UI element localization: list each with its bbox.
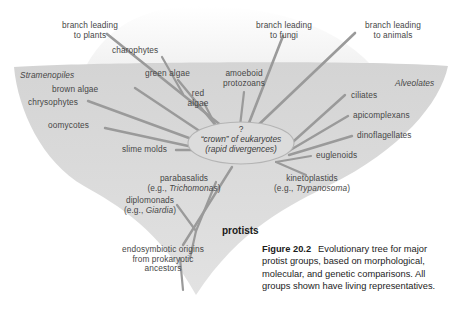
crown-node-line2: (rapid divergences) <box>181 144 301 154</box>
taxon-label-red-algae-line2: algae <box>182 99 214 109</box>
taxon-label-red-algae: red algae <box>182 89 214 108</box>
taxon-label-parabasalids: parabasalids (e.g., Trichomonas) <box>140 174 228 193</box>
crown-node-line1: “crown” of eukaryotes <box>181 134 301 144</box>
figure-caption: Figure 20.2Evolutionary tree for major p… <box>262 243 452 293</box>
taxon-label-slime-molds: slime molds <box>122 145 167 155</box>
example-suffix: ) <box>173 205 176 215</box>
root-label-line3: ancestors <box>97 264 229 274</box>
group-heading-stramenopiles: Stramenopiles <box>20 71 74 81</box>
example-prefix: (e.g., <box>147 183 169 193</box>
example-genus-trichomonas: Trichomonas <box>169 183 217 193</box>
taxon-label-euglenoids: euglenoids <box>316 151 357 161</box>
taxon-label-amoeboid-protozoans: amoeboid protozoans <box>214 69 274 88</box>
taxon-label-chrysophytes: chrysophytes <box>28 98 78 108</box>
taxon-label-diplomonads-example: (e.g., Giardia) <box>108 206 192 216</box>
group-heading-protists: protists <box>222 225 259 236</box>
taxon-label-kinetoplastids-example: (e.g., Trypanosoma) <box>264 184 360 194</box>
branch-label-fungi: branch leading to fungi <box>238 21 330 40</box>
example-suffix: ) <box>218 183 221 193</box>
crown-node-label: “crown” of eukaryotes (rapid divergences… <box>181 134 301 154</box>
example-suffix: ) <box>347 183 350 193</box>
taxon-label-brown-algae: brown algae <box>52 85 98 95</box>
taxon-label-dinoflagellates: dinoflagellates <box>357 131 412 141</box>
crown-question-mark: ? <box>211 124 271 134</box>
branch-label-animals: branch leading to animals <box>344 21 442 40</box>
branch-label-animals-line2: to animals <box>344 31 442 41</box>
example-genus-trypanosoma: Trypanosoma <box>296 183 347 193</box>
taxon-label-ciliates: ciliates <box>351 91 377 101</box>
figure-number: Figure 20.2 <box>262 244 311 254</box>
example-prefix: (e.g., <box>274 183 296 193</box>
taxon-label-diplomonads: diplomonads (e.g., Giardia) <box>108 196 192 215</box>
taxon-label-kinetoplastids: kinetoplastids (e.g., Trypanosoma) <box>264 174 360 193</box>
taxon-label-oomycotes: oomycotes <box>48 121 89 131</box>
protist-evolutionary-tree-figure: branch leading to plants branch leading … <box>0 0 458 324</box>
taxon-label-apicomplexans: apicomplexans <box>353 111 410 121</box>
branch-label-fungi-line2: to fungi <box>238 31 330 41</box>
taxon-label-green-algae: green algae <box>145 69 190 79</box>
branch-label-plants-line2: to plants <box>44 31 136 41</box>
group-heading-alveolates: Alveolates <box>395 79 434 89</box>
taxon-label-parabasalids-example: (e.g., Trichomonas) <box>140 184 228 194</box>
example-genus-giardia: Giardia <box>146 205 173 215</box>
example-prefix: (e.g., <box>124 205 146 215</box>
taxon-label-amoeboid-line2: protozoans <box>214 79 274 89</box>
taxon-label-charophytes: charophytes <box>112 46 158 56</box>
branch-label-plants: branch leading to plants <box>44 21 136 40</box>
root-label-endosymbiotic-origins: endosymbiotic origins from prokaryotic a… <box>97 245 229 274</box>
